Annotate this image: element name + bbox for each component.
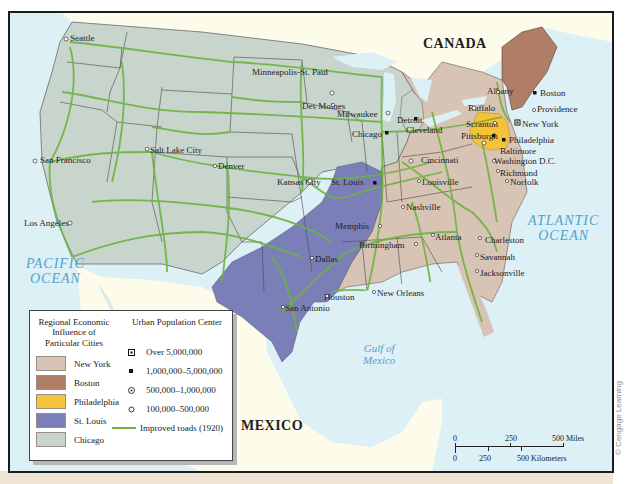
legend-region-st-louis: St. Louis: [36, 413, 107, 428]
legend-pop-over-5m: Over 5,000,000: [120, 347, 202, 357]
swatch-chicago: [36, 432, 66, 447]
square-dot-icon: [120, 349, 142, 356]
swatch-boston: [36, 375, 66, 390]
small-square-icon: [120, 369, 142, 374]
legend-pop-1m-5m: 1,000,000–5,000,000: [120, 366, 223, 376]
circle-dot-icon: [120, 387, 142, 394]
legend-region-label: Boston: [74, 378, 100, 388]
legend-pop-label: 1,000,000–5,000,000: [146, 366, 223, 376]
swatch-new-york: [36, 356, 66, 371]
scale-miles-500: 500 Miles: [552, 434, 584, 443]
legend-region-label: New York: [74, 359, 111, 369]
legend-region-label: St. Louis: [74, 416, 107, 426]
scale-km-250: 250: [479, 454, 491, 463]
legend-region-chicago: Chicago: [36, 432, 104, 447]
legend-region-philadelphia: Philadelphia: [36, 394, 119, 409]
road-line-icon: [112, 427, 136, 429]
scale-km-0: 0: [453, 454, 457, 463]
copyright-credit: © Cengage Learning: [614, 381, 623, 455]
open-circle-icon: [120, 406, 142, 413]
scale-tick: [563, 443, 564, 447]
swatch-st-louis: [36, 413, 66, 428]
legend-roads-label: Improved roads (1920): [140, 423, 223, 433]
legend-pop-label: 100,000–500,000: [146, 404, 209, 414]
scale-tick: [488, 447, 489, 451]
legend-region-label: Chicago: [74, 435, 104, 445]
legend-pop-500k-1m: 500,000–1,000,000: [120, 385, 216, 395]
legend-pop-label: 500,000–1,000,000: [146, 385, 216, 395]
scale-tick: [455, 443, 456, 453]
scale-miles-250: 250: [505, 434, 517, 443]
legend-region-new-york: New York: [36, 356, 111, 371]
legend-pop-label: Over 5,000,000: [146, 347, 202, 357]
legend-population-title: Urban Population Center: [128, 317, 226, 327]
scale-line: [455, 446, 563, 447]
legend: Regional Economic Influence of Particula…: [29, 310, 233, 461]
legend-region-boston: Boston: [36, 375, 100, 390]
scale-bar: 0 250 500 Miles 0 250 500 Kilometers: [453, 434, 613, 470]
scale-tick: [510, 443, 511, 447]
scale-miles-0: 0: [453, 434, 457, 443]
swatch-philadelphia: [36, 394, 66, 409]
legend-regions-title: Regional Economic Influence of Particula…: [34, 317, 114, 348]
legend-roads: Improved roads (1920): [112, 423, 223, 433]
scale-tick: [521, 447, 522, 451]
legend-pop-100k-500k: 100,000–500,000: [120, 404, 209, 414]
scale-km-500: 500 Kilometers: [517, 454, 567, 463]
map-frame: CANADA MEXICO PACIFIC OCEAN ATLANTIC OCE…: [8, 11, 614, 473]
legend-region-label: Philadelphia: [74, 397, 119, 407]
